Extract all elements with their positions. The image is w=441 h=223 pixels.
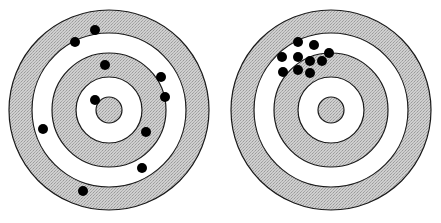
hit-mark <box>309 40 319 50</box>
hit-mark <box>305 68 315 78</box>
hit-mark <box>100 60 110 70</box>
hit-mark <box>293 52 303 62</box>
hit-mark <box>90 95 100 105</box>
hit-mark <box>277 52 287 62</box>
hit-mark <box>70 37 80 47</box>
targets-canvas <box>0 0 441 223</box>
hit-mark <box>156 72 166 82</box>
hit-mark <box>137 163 147 173</box>
hit-mark <box>160 92 170 102</box>
bullseye <box>318 97 344 123</box>
hit-mark <box>324 48 334 58</box>
hit-mark <box>293 37 303 47</box>
hit-mark <box>38 124 48 134</box>
hit-mark <box>78 186 88 196</box>
hit-mark <box>293 65 303 75</box>
left-target <box>9 10 209 210</box>
hit-mark <box>305 56 315 66</box>
target-diagram: Scattered hits Clustered hits <box>0 0 441 223</box>
hit-mark <box>90 25 100 35</box>
hit-mark <box>317 56 327 66</box>
right-target <box>231 10 431 210</box>
hit-mark <box>141 127 151 137</box>
hit-mark <box>278 67 288 77</box>
